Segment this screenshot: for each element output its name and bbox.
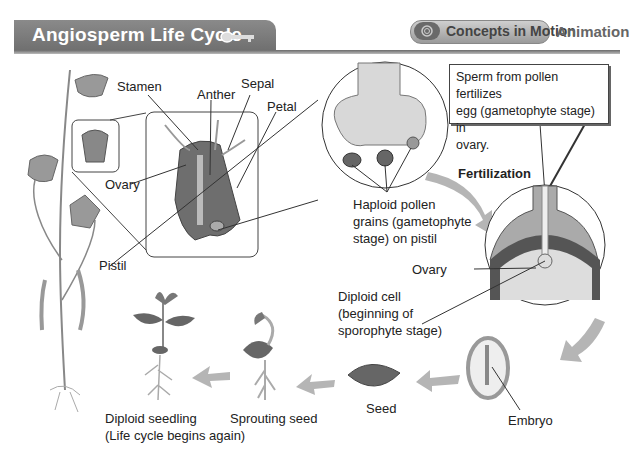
label-diploid-seedling: Diploid seedling(Life cycle begins again… — [105, 410, 245, 444]
label-sepal: Sepal — [241, 75, 274, 92]
plant-illustration — [34, 70, 95, 412]
label-anther: Anther — [197, 86, 235, 103]
label-pistil: Pistil — [99, 257, 126, 274]
label-ovary-flower: Ovary — [105, 176, 140, 193]
fertilization-callout: Sperm from pollen fertilizesegg (gametop… — [449, 64, 609, 124]
label-diploid-cell: Diploid cell(beginning ofsporophyte stag… — [338, 288, 442, 339]
label-petal: Petal — [267, 98, 297, 115]
label-seed: Seed — [366, 400, 396, 417]
label-embryo: Embryo — [508, 412, 553, 429]
label-haploid-pollen: Haploid pollengrains (gametophytestage) … — [353, 196, 472, 247]
label-fertilization: Fertilization — [458, 165, 531, 182]
label-stamen: Stamen — [117, 78, 162, 95]
label-ovary-fertilization: Ovary — [412, 261, 447, 278]
